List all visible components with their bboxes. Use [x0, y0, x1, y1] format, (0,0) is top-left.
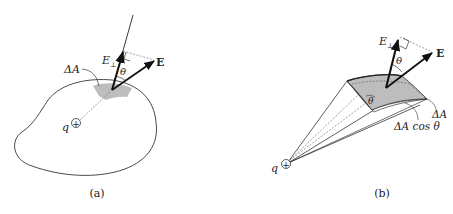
- e-field-label: E: [156, 56, 164, 69]
- cone-edge-bottom: [288, 105, 420, 163]
- e-field-label: E: [436, 47, 444, 60]
- inner-angle-label: θ: [368, 96, 374, 106]
- angle-label: θ: [396, 55, 402, 66]
- projected-area-label: ΔA cos θ: [393, 120, 440, 132]
- right-angle-marker: [124, 52, 130, 61]
- right-angle-marker: [400, 38, 409, 49]
- cone-edge-mid: [288, 110, 374, 163]
- area-leader-line: [82, 69, 99, 86]
- projection-dashed-line: [123, 51, 154, 60]
- panel-a: + q ΔA E ⊥ E θ (a): [15, 15, 165, 200]
- e-perp-label: E: [378, 35, 387, 48]
- area-label: ΔA: [431, 108, 448, 120]
- caption-a: (a): [89, 187, 104, 200]
- caption-b: (b): [374, 187, 390, 200]
- gauss-law-flux-diagram: + q ΔA E ⊥ E θ (a) θ: [0, 0, 453, 214]
- charge-label: q: [271, 162, 278, 175]
- panel-b: θ + q E ⊥ E θ ΔA ΔA cos θ (b): [271, 35, 448, 200]
- e-perp-label: E: [101, 54, 110, 67]
- cone-dashed-inner: [290, 95, 358, 160]
- charge-symbol: +: [72, 119, 80, 129]
- closed-surface: [15, 80, 157, 176]
- projected-area-leader-line: [405, 103, 418, 120]
- charge-symbol: +: [282, 160, 290, 170]
- e-perp-subscript: ⊥: [387, 42, 394, 50]
- area-label: ΔA: [63, 63, 80, 76]
- angle-label: θ: [120, 66, 126, 77]
- charge-label: q: [62, 121, 69, 134]
- e-perp-subscript: ⊥: [110, 61, 117, 69]
